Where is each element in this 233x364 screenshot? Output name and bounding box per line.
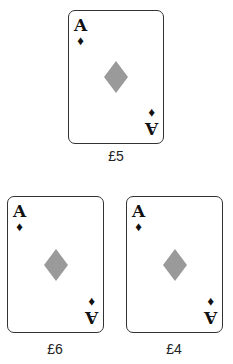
diamond-icon: ♦ bbox=[16, 220, 23, 233]
card-rank: A bbox=[145, 121, 158, 137]
diamond-icon: ♦ bbox=[135, 220, 142, 233]
card-corner-bottom-right: A ♦ bbox=[204, 296, 217, 326]
diamond-icon bbox=[104, 61, 128, 93]
card-corner-top-left: A ♦ bbox=[13, 203, 26, 233]
diamond-icon bbox=[163, 249, 187, 281]
card-rank: A bbox=[204, 310, 217, 326]
card-rank: A bbox=[74, 17, 87, 33]
diamond-icon: ♦ bbox=[88, 296, 95, 309]
card-rank: A bbox=[132, 203, 145, 219]
diamond-icon: ♦ bbox=[207, 296, 214, 309]
diamond-icon: ♦ bbox=[77, 34, 84, 47]
diamond-icon: ♦ bbox=[148, 107, 155, 120]
card-rank: A bbox=[85, 310, 98, 326]
card-corner-bottom-right: A ♦ bbox=[145, 107, 158, 137]
card-corner-top-left: A ♦ bbox=[74, 17, 87, 47]
card-ace-of-diamonds-top[interactable]: A ♦ A ♦ bbox=[68, 10, 164, 144]
diamond-icon bbox=[44, 249, 68, 281]
card-price: £5 bbox=[86, 148, 146, 164]
card-price: £4 bbox=[144, 341, 204, 357]
card-ace-of-diamonds-right[interactable]: A ♦ A ♦ bbox=[126, 196, 223, 333]
card-corner-top-left: A ♦ bbox=[132, 203, 145, 233]
card-price: £6 bbox=[25, 341, 85, 357]
card-corner-bottom-right: A ♦ bbox=[85, 296, 98, 326]
card-rank: A bbox=[13, 203, 26, 219]
card-ace-of-diamonds-left[interactable]: A ♦ A ♦ bbox=[7, 196, 104, 333]
